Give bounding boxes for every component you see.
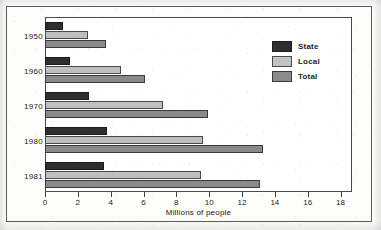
x-tick-2 [78,192,79,197]
x-tick-label-10: 10 [205,198,214,207]
legend-label-local: Local [298,57,320,66]
legend-item-state: State [272,40,338,52]
legend-label-state: State [298,42,319,51]
x-tick-16 [308,192,309,197]
x-tick-12 [242,192,243,197]
chart-legend: StateLocalTotal [272,40,338,85]
x-axis-title: Millions of people [45,208,352,217]
x-tick-label-18: 18 [336,198,345,207]
legend-swatch-state [272,41,292,52]
x-tick-label-0: 0 [43,198,47,207]
legend-swatch-total [272,71,292,82]
y-axis-label-1980: 1980 [3,137,43,146]
x-tick-label-8: 8 [174,198,178,207]
y-axis-label-1960: 1960 [3,67,43,76]
legend-item-local: Local [272,55,338,67]
x-tick-18 [341,192,342,197]
x-tick-14 [275,192,276,197]
y-axis-label-1970: 1970 [3,102,43,111]
legend-label-total: Total [298,72,318,81]
x-tick-8 [176,192,177,197]
x-tick-4 [111,192,112,197]
x-tick-label-4: 4 [108,198,112,207]
y-axis-label-1950: 1950 [3,32,43,41]
x-tick-label-6: 6 [141,198,145,207]
x-tick-10 [209,192,210,197]
x-tick-label-12: 12 [238,198,247,207]
legend-swatch-local [272,56,292,67]
x-tick-6 [144,192,145,197]
legend-item-total: Total [272,70,338,82]
x-tick-label-16: 16 [303,198,312,207]
x-tick-0 [45,192,46,197]
x-tick-label-14: 14 [270,198,279,207]
y-axis-label-1981: 1981 [3,172,43,181]
x-tick-label-2: 2 [76,198,80,207]
bar-chart-figure: 19501960197019801981 024681012141618 Mil… [0,0,381,230]
